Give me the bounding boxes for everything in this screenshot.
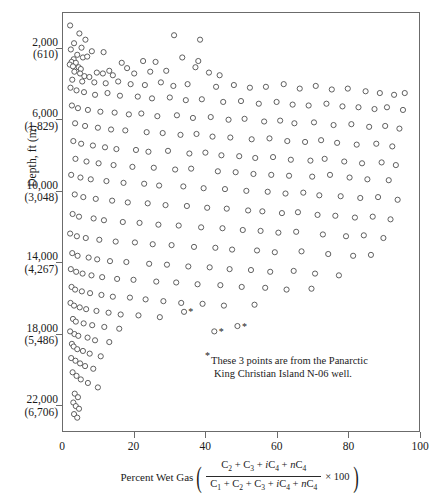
data-point — [178, 132, 183, 137]
data-point-asterisk: * — [219, 327, 224, 337]
data-point — [68, 85, 73, 90]
data-point — [71, 41, 76, 46]
y-tick-meters: (6,706) — [0, 406, 58, 419]
data-point — [247, 85, 252, 90]
data-point — [174, 113, 179, 118]
data-point — [308, 158, 313, 163]
data-point — [95, 257, 100, 262]
data-point — [244, 188, 249, 193]
data-point — [102, 324, 107, 329]
data-point — [226, 117, 231, 122]
data-point — [324, 101, 329, 106]
data-point — [191, 244, 196, 249]
data-point — [269, 172, 274, 177]
data-point — [199, 97, 204, 102]
data-point — [358, 195, 363, 200]
data-point — [91, 366, 96, 371]
data-point — [239, 284, 244, 289]
starred-data-point — [181, 309, 186, 314]
data-point — [329, 87, 334, 92]
data-point — [281, 82, 286, 87]
data-point — [78, 175, 83, 180]
data-point — [146, 149, 151, 154]
data-point — [187, 151, 192, 156]
data-point — [299, 249, 304, 254]
data-point — [274, 99, 279, 104]
data-point — [161, 299, 166, 304]
data-point — [104, 178, 109, 183]
data-point — [340, 104, 345, 109]
data-point — [124, 259, 129, 264]
data-point — [128, 82, 133, 87]
data-point — [224, 206, 229, 211]
data-point — [320, 232, 325, 237]
data-point — [70, 251, 75, 256]
data-point — [85, 54, 90, 59]
x-axis-caption: Percent Wet Gas ( C2 + C3 + iC4 + nC4 C1… — [62, 459, 420, 494]
data-point — [210, 134, 215, 139]
data-point — [343, 234, 348, 239]
x-tick-label: 0 — [42, 440, 82, 452]
data-point — [383, 123, 388, 128]
data-point — [237, 154, 242, 159]
data-point — [97, 237, 102, 242]
wet-gas-fraction: C2 + C3 + iC4 + nC4 C1 + C2 + C3 + iC4 +… — [206, 459, 321, 494]
data-point — [110, 73, 115, 78]
data-point — [201, 186, 206, 191]
data-point — [265, 189, 270, 194]
x-tick-mark — [134, 432, 135, 438]
data-point — [101, 50, 106, 55]
data-point — [336, 273, 341, 278]
data-point — [326, 251, 331, 256]
data-point — [74, 234, 79, 239]
data-point — [331, 122, 336, 127]
data-point — [215, 169, 220, 174]
data-point — [110, 198, 115, 203]
y-axis-title: Depth, ft (m) — [26, 76, 38, 236]
data-point — [83, 37, 88, 42]
data-point — [154, 279, 159, 284]
data-point — [130, 164, 135, 169]
data-point — [258, 228, 263, 233]
data-point — [82, 363, 87, 368]
y-tick-feet: 10,000 — [26, 179, 58, 191]
data-point — [309, 286, 314, 291]
data-point — [70, 64, 75, 69]
data-point — [327, 172, 332, 177]
data-point — [81, 90, 86, 95]
data-point — [179, 300, 184, 305]
data-point — [157, 315, 162, 320]
data-point — [356, 105, 361, 110]
data-point — [246, 208, 251, 213]
data-point — [361, 233, 366, 238]
data-point — [351, 253, 356, 258]
data-point — [85, 335, 90, 340]
data-point — [276, 230, 281, 235]
data-point — [76, 406, 81, 411]
data-point — [294, 229, 299, 234]
data-point — [365, 177, 370, 182]
data-point — [96, 161, 101, 166]
data-point — [272, 250, 277, 255]
data-point — [213, 245, 218, 250]
data-point — [311, 120, 316, 125]
data-point — [157, 183, 162, 188]
data-point — [79, 289, 84, 294]
data-point — [233, 170, 238, 175]
data-point — [181, 184, 186, 189]
data-point — [205, 205, 210, 210]
y-tick-meters: (610) — [0, 48, 58, 61]
data-point — [118, 312, 123, 317]
data-point — [306, 103, 311, 108]
formula-open-paren: ( — [197, 464, 203, 490]
data-point — [342, 159, 347, 164]
data-point — [79, 141, 84, 146]
data-point — [200, 301, 205, 306]
data-point — [127, 295, 132, 300]
data-point — [199, 225, 204, 230]
data-point — [219, 153, 224, 158]
data-point — [189, 166, 194, 171]
data-point — [94, 308, 99, 313]
formula-multiplier: × 100 — [325, 471, 349, 482]
fraction-numerator: C2 + C3 + iC4 + nC4 — [217, 459, 310, 476]
